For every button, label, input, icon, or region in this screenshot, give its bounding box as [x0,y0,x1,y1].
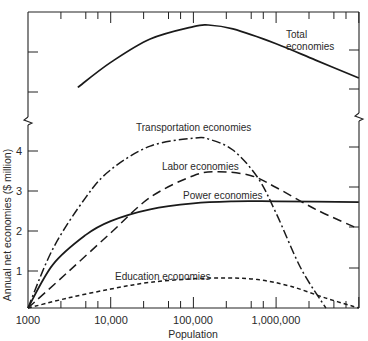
y-tick-3: 3 [16,185,22,197]
x-tick-10000: 10,000 [94,314,128,326]
label-total-1: Total [286,29,307,40]
y-axis-title: Annual net economies ($ million) [1,149,13,301]
x-tick-1000: 1000 [16,314,40,326]
plot-frame [24,12,363,308]
label-education: Education economies [115,271,211,282]
y-tick-4: 4 [16,145,22,157]
x-axis-title: Population [168,328,218,340]
x-tick-100000: 100,000 [173,314,213,326]
y-tick-2: 2 [16,225,22,237]
label-labor: Labor economies [162,161,239,172]
y-tick-1: 1 [16,265,22,277]
label-power: Power economies [183,190,262,201]
label-transportation: Transportation economies [136,122,251,133]
series-total-economies [78,25,359,88]
x-axis-ticks [61,12,359,308]
chart: 1 2 3 4 1000 10,000 100,000 1,000,000 Po… [0,0,368,341]
label-total-2: economies [286,41,334,52]
series-power-economies [28,201,359,308]
x-tick-1000000: 1,000,000 [252,314,301,326]
